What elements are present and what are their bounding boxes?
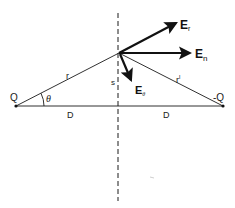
label-vector-e-theta: Eθ — [135, 84, 145, 97]
label-r-prime: rl — [176, 74, 180, 85]
negative-charge-dot — [221, 104, 224, 107]
label-vector-e-r: Er — [180, 18, 191, 32]
dipole-field-diagram: Q -Q θ r rl s D D Er En Eθ — [0, 0, 235, 208]
label-vector-e-r-sub: r — [188, 25, 191, 32]
angle-theta-arc — [41, 93, 44, 106]
label-d-left: D — [67, 110, 74, 120]
vector-e-r-arrow — [119, 23, 176, 53]
label-vector-e-n: En — [195, 47, 207, 63]
label-vector-e-n-sub: n — [203, 54, 207, 63]
label-vector-e-theta-main: E — [135, 84, 142, 96]
label-vector-e-theta-sub: θ — [142, 91, 145, 97]
label-r-prime-superscript: l — [179, 74, 180, 80]
label-vector-e-n-main: E — [195, 47, 203, 61]
smudge-mark — [150, 177, 154, 178]
label-s: s — [111, 78, 115, 87]
label-negative-charge: -Q — [213, 92, 224, 103]
label-r: r — [66, 71, 69, 81]
label-positive-charge: Q — [10, 92, 18, 103]
label-vector-e-r-main: E — [180, 18, 188, 32]
label-angle-theta: θ — [46, 93, 51, 104]
positive-charge-dot — [14, 104, 17, 107]
label-d-right: D — [163, 110, 170, 120]
